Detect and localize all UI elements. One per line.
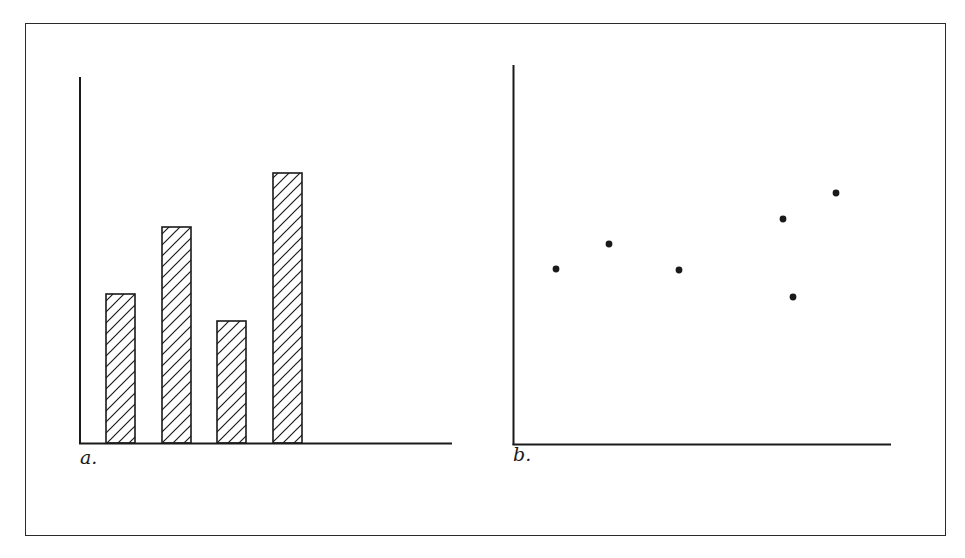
panel-a-bar-chart <box>79 77 452 444</box>
scatter-series <box>553 190 840 301</box>
panel-b-scatter-plot <box>513 65 892 445</box>
scatter-point <box>780 216 787 223</box>
bar-2 <box>162 227 191 443</box>
panel-b-label: b. <box>513 443 531 465</box>
figure-canvas <box>0 0 965 558</box>
bar-3 <box>217 321 246 443</box>
scatter-point <box>833 190 840 197</box>
scatter-point <box>553 266 560 273</box>
bar-series <box>106 173 302 443</box>
bar-4 <box>273 173 302 443</box>
scatter-point <box>790 294 797 301</box>
panel-a-label: a. <box>80 446 97 468</box>
bar-1 <box>106 294 135 443</box>
scatter-point <box>606 241 613 248</box>
scatter-point <box>676 267 683 274</box>
